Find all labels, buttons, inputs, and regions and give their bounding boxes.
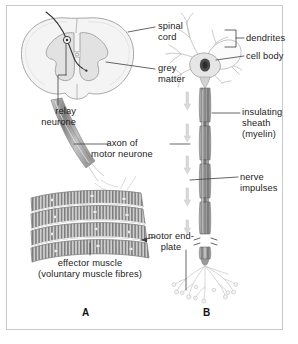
label-spinal-cord: spinal cord xyxy=(158,21,183,43)
label-axon-line1: axon of xyxy=(106,138,137,148)
label-insulating-sheath: insulating sheath (myelin) xyxy=(242,107,282,140)
label-grey-matter-line1: grey xyxy=(158,63,177,73)
label-effector-muscle-line2: (voluntary muscle fibres) xyxy=(38,269,142,279)
label-grey-matter-line2: matter xyxy=(158,74,185,84)
panel-letter-b: B xyxy=(203,307,210,318)
label-relay-neurone-line2: neurone xyxy=(41,117,76,127)
biology-diagram-figure: spinal cord grey matter relay neurone ax… xyxy=(0,0,298,344)
label-cell-body: cell body xyxy=(246,51,284,62)
label-relay-neurone: relay neurone xyxy=(21,106,76,128)
label-insulating-sheath-line2: sheath xyxy=(242,118,271,128)
label-dendrites: dendrites xyxy=(246,33,285,44)
figure-frame xyxy=(6,5,283,330)
panel-letter-a: A xyxy=(82,307,89,318)
label-nerve-impulses: nerve impulses xyxy=(240,172,277,194)
label-grey-matter: grey matter xyxy=(158,63,185,85)
label-spinal-cord-line1: spinal xyxy=(158,21,183,31)
label-insulating-sheath-line1: insulating xyxy=(242,107,282,117)
label-axon-of-motor-neurone: axon of motor neurone xyxy=(72,138,172,160)
label-nerve-impulses-line2: impulses xyxy=(240,183,277,193)
label-spinal-cord-line2: cord xyxy=(158,32,177,42)
label-motor-end-plate: motor end- plate xyxy=(140,231,202,253)
label-motor-end-plate-line1: motor end- xyxy=(148,231,194,241)
label-axon-line2: motor neurone xyxy=(91,149,153,159)
label-effector-muscle-line1: effector muscle xyxy=(58,258,122,268)
label-relay-neurone-line1: relay xyxy=(55,106,76,116)
label-insulating-sheath-line3: (myelin) xyxy=(242,129,276,139)
label-nerve-impulses-line1: nerve xyxy=(240,172,264,182)
label-motor-end-plate-line2: plate xyxy=(161,242,182,252)
label-effector-muscle: effector muscle (voluntary muscle fibres… xyxy=(16,258,164,280)
